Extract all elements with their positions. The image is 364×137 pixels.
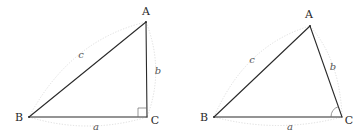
side-label-b: b [155, 65, 161, 76]
side-c [29, 22, 146, 117]
triangle-diagram: A B C a b c A B C a b c [0, 0, 364, 137]
vertex-b-dot [213, 116, 215, 118]
vertex-b-dot [28, 116, 30, 118]
vertex-label-c: C [345, 114, 353, 127]
side-label-a: a [287, 121, 293, 132]
vertex-label-b: B [15, 111, 23, 124]
vertex-label-a: A [304, 8, 314, 21]
vertex-label-c: C [151, 114, 159, 127]
arc-side-a [29, 117, 147, 126]
oblique-triangle-figure: A B C a b c [200, 8, 353, 132]
vertex-a-dot [309, 25, 311, 27]
side-label-b: b [330, 61, 336, 72]
side-c [214, 26, 310, 117]
vertex-a-dot [145, 21, 147, 23]
right-triangle-figure: A B C a b c [15, 5, 161, 132]
side-label-c: c [249, 54, 255, 65]
arc-side-a [214, 117, 342, 126]
vertex-label-b: B [200, 111, 208, 124]
side-label-a: a [93, 121, 99, 132]
right-angle-marker [138, 108, 147, 117]
vertex-label-a: A [141, 5, 151, 18]
side-label-c: c [78, 49, 84, 60]
angle-arc-marker [331, 107, 339, 117]
side-b [310, 26, 342, 117]
side-b [146, 22, 147, 117]
